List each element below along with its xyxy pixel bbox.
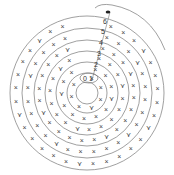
single-crochet-icon: × bbox=[62, 78, 66, 85]
single-crochet-icon: × bbox=[108, 61, 112, 68]
single-crochet-icon: × bbox=[21, 58, 25, 65]
increase-stitch-icon: ⋎ bbox=[128, 70, 133, 77]
single-crochet-icon: × bbox=[143, 83, 147, 90]
single-crochet-icon: × bbox=[121, 59, 125, 66]
single-crochet-icon: × bbox=[117, 40, 121, 47]
single-crochet-icon: × bbox=[72, 81, 76, 88]
single-crochet-icon: × bbox=[155, 85, 159, 92]
single-crochet-icon: × bbox=[51, 41, 55, 48]
single-crochet-icon: × bbox=[105, 158, 109, 165]
single-crochet-icon: × bbox=[109, 83, 113, 90]
single-crochet-icon: × bbox=[26, 98, 30, 105]
single-crochet-icon: × bbox=[92, 148, 96, 155]
row-number-6: 6 bbox=[103, 18, 107, 25]
single-crochet-icon: × bbox=[40, 72, 44, 79]
single-crochet-icon: × bbox=[62, 102, 66, 109]
single-crochet-icon: × bbox=[155, 99, 159, 106]
single-crochet-icon: × bbox=[82, 115, 86, 122]
single-crochet-icon: × bbox=[87, 126, 91, 133]
single-crochet-icon: × bbox=[99, 123, 103, 130]
increase-stitch-icon: ⋎ bbox=[17, 111, 22, 118]
row-number-0: 0 bbox=[83, 75, 87, 82]
stitch-marks: ×××⋎××××××⋎×××××⋎×××××⋎×××××⋎×××××⋎××××⋎… bbox=[14, 23, 160, 168]
single-crochet-icon: × bbox=[101, 45, 105, 52]
ring-3 bbox=[45, 51, 129, 135]
crochet-spiral-diagram: 0123456 ×××⋎××××××⋎×××××⋎×××××⋎×××××⋎×××… bbox=[0, 0, 174, 175]
single-crochet-icon: × bbox=[129, 106, 133, 113]
ring-0 bbox=[76, 82, 98, 104]
single-crochet-icon: × bbox=[51, 75, 55, 82]
single-crochet-icon: × bbox=[116, 139, 120, 146]
single-crochet-icon: × bbox=[140, 109, 144, 116]
single-crochet-icon: × bbox=[115, 126, 119, 133]
single-crochet-icon: × bbox=[92, 136, 96, 143]
single-crochet-icon: × bbox=[26, 84, 30, 91]
increase-stitch-icon: ⋎ bbox=[135, 59, 140, 66]
single-crochet-icon: × bbox=[123, 117, 127, 124]
single-crochet-icon: × bbox=[112, 51, 116, 58]
single-crochet-icon: × bbox=[55, 52, 59, 59]
single-crochet-icon: × bbox=[127, 48, 131, 55]
single-crochet-icon: × bbox=[51, 152, 55, 159]
single-crochet-icon: × bbox=[97, 55, 101, 62]
single-crochet-icon: × bbox=[105, 34, 109, 41]
single-crochet-icon: × bbox=[61, 23, 65, 30]
single-crochet-icon: × bbox=[69, 69, 73, 76]
single-crochet-icon: × bbox=[46, 61, 50, 68]
single-crochet-icon: × bbox=[104, 106, 108, 113]
single-crochet-icon: × bbox=[29, 110, 33, 117]
single-crochet-icon: × bbox=[14, 84, 18, 91]
single-crochet-icon: × bbox=[99, 84, 103, 91]
single-crochet-icon: × bbox=[68, 134, 72, 141]
single-crochet-icon: × bbox=[109, 116, 113, 123]
increase-stitch-icon: ⋎ bbox=[89, 104, 94, 111]
single-crochet-icon: × bbox=[64, 158, 68, 165]
single-crochet-icon: × bbox=[16, 71, 20, 78]
single-crochet-icon: × bbox=[35, 122, 39, 129]
single-crochet-icon: × bbox=[64, 119, 68, 126]
increase-stitch-icon: ⋎ bbox=[54, 140, 59, 147]
increase-stitch-icon: ⋎ bbox=[58, 65, 63, 72]
increase-stitch-icon: ⋎ bbox=[141, 47, 146, 54]
increase-stitch-icon: ⋎ bbox=[28, 72, 33, 79]
single-crochet-icon: × bbox=[34, 60, 38, 67]
single-crochet-icon: × bbox=[104, 145, 108, 152]
increase-stitch-icon: ⋎ bbox=[109, 95, 114, 102]
increase-stitch-icon: ⋎ bbox=[104, 133, 109, 140]
single-crochet-icon: × bbox=[132, 94, 136, 101]
single-crochet-icon: × bbox=[66, 146, 70, 153]
single-crochet-icon: × bbox=[37, 85, 41, 92]
increase-stitch-icon: ⋎ bbox=[146, 124, 151, 131]
single-crochet-icon: × bbox=[129, 145, 133, 152]
single-crochet-icon: × bbox=[148, 59, 152, 66]
increase-stitch-icon: ⋎ bbox=[65, 46, 70, 53]
single-crochet-icon: × bbox=[30, 135, 34, 142]
single-crochet-icon: × bbox=[57, 128, 61, 135]
single-crochet-icon: × bbox=[143, 96, 147, 103]
single-crochet-icon: × bbox=[99, 96, 103, 103]
single-crochet-icon: × bbox=[48, 87, 52, 94]
single-crochet-icon: × bbox=[79, 148, 83, 155]
single-crochet-icon: × bbox=[42, 49, 46, 56]
single-crochet-icon: × bbox=[109, 23, 113, 30]
single-crochet-icon: × bbox=[69, 93, 73, 100]
single-crochet-icon: × bbox=[90, 75, 94, 82]
single-crochet-icon: × bbox=[48, 119, 52, 126]
increase-stitch-icon: ⋎ bbox=[77, 160, 82, 167]
single-crochet-icon: × bbox=[152, 112, 156, 119]
single-crochet-icon: × bbox=[93, 66, 97, 73]
single-crochet-icon: × bbox=[103, 72, 107, 79]
single-crochet-icon: × bbox=[14, 98, 18, 105]
increase-stitch-icon: ⋎ bbox=[59, 90, 64, 97]
single-crochet-icon: × bbox=[131, 82, 135, 89]
spiral-rings bbox=[10, 16, 164, 170]
single-crochet-icon: × bbox=[77, 103, 81, 110]
increase-stitch-icon: ⋎ bbox=[75, 125, 80, 132]
single-crochet-icon: × bbox=[40, 145, 44, 152]
single-crochet-icon: × bbox=[22, 124, 26, 131]
single-crochet-icon: × bbox=[63, 35, 67, 42]
increase-stitch-icon: ⋎ bbox=[41, 109, 46, 116]
single-crochet-icon: × bbox=[67, 57, 71, 64]
single-crochet-icon: × bbox=[55, 111, 59, 118]
single-crochet-icon: × bbox=[91, 160, 95, 167]
